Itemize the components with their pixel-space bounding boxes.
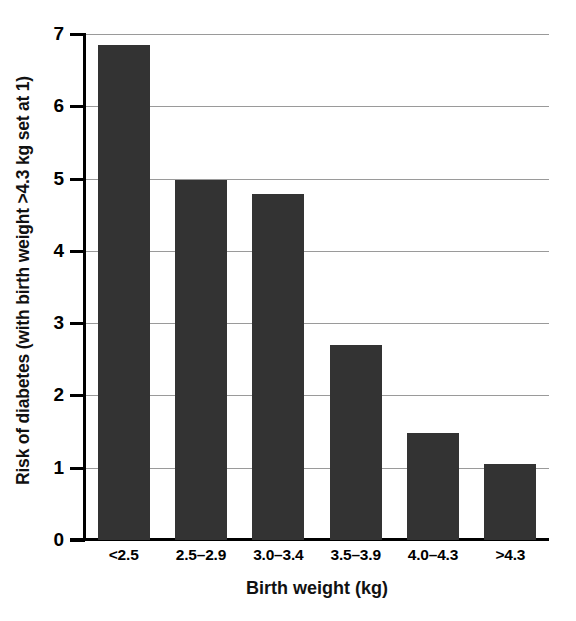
y-axis-title: Risk of diabetes (with birth weight >4.3… xyxy=(13,76,34,485)
y-tick-mark xyxy=(70,178,85,181)
y-tick-label: 6 xyxy=(38,96,64,115)
y-tick-mark xyxy=(70,250,85,253)
y-tick-label: 1 xyxy=(38,458,64,477)
bar xyxy=(175,180,227,540)
x-tick-label: <2.5 xyxy=(80,546,168,564)
x-axis-title: Birth weight (kg) xyxy=(85,578,549,599)
y-tick-label: 5 xyxy=(38,169,64,188)
x-tick-label: 3.5–3.9 xyxy=(312,546,400,564)
bar-series xyxy=(85,34,549,540)
bar xyxy=(98,45,150,540)
x-tick-label: 3.0–3.4 xyxy=(234,546,322,564)
y-tick-mark xyxy=(70,467,85,470)
x-tick-label: 2.5–2.9 xyxy=(157,546,245,564)
y-tick-mark xyxy=(70,394,85,397)
y-tick-label: 3 xyxy=(38,313,64,332)
y-tick-mark xyxy=(70,33,85,36)
y-tick-label: 2 xyxy=(38,385,64,404)
bar xyxy=(252,194,304,540)
bar xyxy=(330,345,382,540)
y-tick-label: 4 xyxy=(38,241,64,260)
y-tick-label: 7 xyxy=(38,24,64,43)
bar xyxy=(484,464,536,540)
y-tick-mark xyxy=(70,105,85,108)
y-tick-mark xyxy=(70,539,85,542)
bar xyxy=(407,433,459,540)
bar-chart-figure: Risk of diabetes (with birth weight >4.3… xyxy=(0,0,576,621)
y-tick-mark xyxy=(70,322,85,325)
x-tick-label: >4.3 xyxy=(466,546,554,564)
y-tick-label: 0 xyxy=(38,530,64,549)
x-tick-label: 4.0–4.3 xyxy=(389,546,477,564)
